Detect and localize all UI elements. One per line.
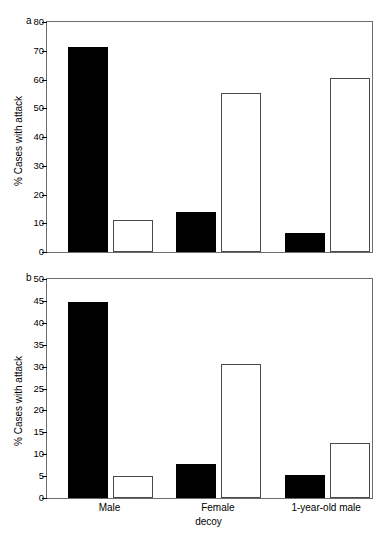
x-axis-title: decoy: [195, 516, 222, 527]
panel-label-a: a: [26, 16, 32, 26]
y-tick-label: 20: [33, 190, 44, 200]
bar-a-female-open: [221, 93, 261, 252]
y-tick-label: 30: [33, 161, 44, 171]
y-axis-title-a: % Cases with attack: [14, 96, 24, 186]
y-axis-title-b: % Cases with attack: [14, 356, 24, 446]
bar-a-female-filled: [176, 212, 216, 252]
y-tick-label: 80: [33, 17, 44, 27]
y-tick-label: 0: [39, 493, 44, 503]
figure-panel-group: a % Cases with attack 01020304050607080 …: [0, 0, 380, 544]
y-tick-label: 70: [33, 46, 44, 56]
x-tick-label-female: Female: [201, 502, 234, 513]
y-tick-label: 10: [33, 219, 44, 229]
bar-b-1-year-old-male-open: [330, 443, 370, 498]
bar-a-1-year-old-male-open: [330, 78, 370, 252]
bar-b-male-filled: [68, 302, 108, 498]
y-tick-label: 10: [33, 449, 44, 459]
plot-area-b: 05101520253035404550: [46, 278, 373, 499]
bar-b-1-year-old-male-filled: [285, 475, 325, 498]
y-tick-label: 50: [33, 104, 44, 114]
y-tick-label: 40: [33, 318, 44, 328]
x-tick-label-1-year-old-male: 1-year-old male: [291, 502, 360, 513]
y-tick-label: 0: [39, 247, 44, 257]
y-tick-label: 20: [33, 406, 44, 416]
chart-panel-a: a % Cases with attack 01020304050607080: [0, 0, 380, 268]
y-tick-label: 35: [33, 340, 44, 350]
plot-area-a: 01020304050607080: [46, 21, 373, 253]
y-tick-label: 60: [33, 75, 44, 85]
bar-b-male-open: [113, 476, 153, 498]
bar-b-female-open: [221, 364, 261, 498]
y-tick-label: 40: [33, 132, 44, 142]
panel-label-b: b: [26, 273, 32, 283]
x-tick-label-male: Male: [99, 502, 121, 513]
bar-b-female-filled: [176, 464, 216, 498]
y-tick-label: 15: [33, 428, 44, 438]
bar-a-1-year-old-male-filled: [285, 233, 325, 252]
chart-panel-b: b % Cases with attack 051015202530354045…: [0, 268, 380, 544]
y-tick-label: 45: [33, 296, 44, 306]
bar-a-male-filled: [68, 47, 108, 252]
y-tick-label: 50: [33, 274, 44, 284]
y-tick-label: 30: [33, 362, 44, 372]
y-tick-label: 5: [39, 471, 44, 481]
bar-a-male-open: [113, 220, 153, 252]
y-tick-label: 25: [33, 384, 44, 394]
